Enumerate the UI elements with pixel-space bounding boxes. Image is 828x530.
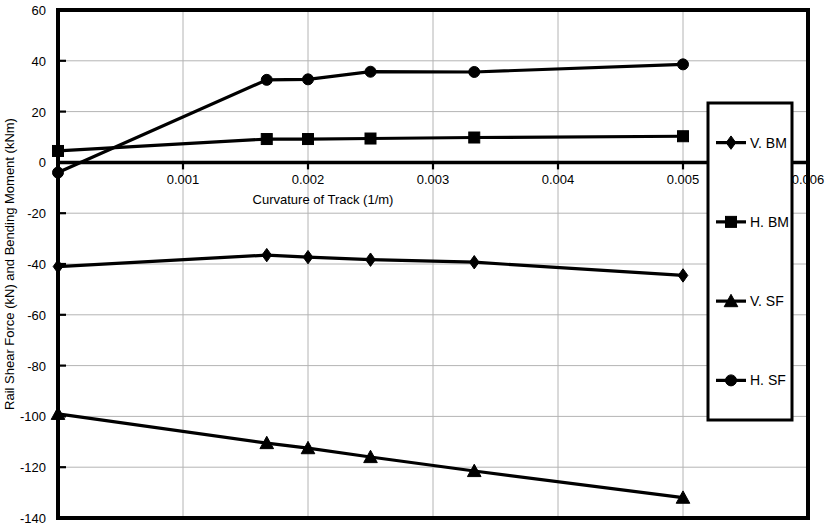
y-tick-label: -100 (20, 409, 46, 424)
gridlines (58, 10, 808, 518)
circle-marker (678, 59, 689, 70)
y-tick-label: 40 (32, 54, 46, 69)
series-v-bm (53, 248, 688, 282)
series-line (58, 64, 683, 172)
circle-marker (726, 375, 737, 386)
x-tick-label: 0.004 (542, 172, 575, 187)
legend-label: V. BM (750, 135, 787, 151)
square-marker (303, 134, 314, 145)
chart-legend: V. BMH. BMV. SFH. SF (708, 103, 792, 420)
diamond-marker (469, 256, 479, 269)
diamond-marker (303, 250, 313, 263)
y-axis-title: Rail Shear Force (kN) and Bending Moment… (2, 118, 17, 410)
y-tick-label: -120 (20, 460, 46, 475)
y-tick-label: 20 (32, 105, 46, 120)
square-marker (261, 134, 272, 145)
x-tick-label: 0.002 (292, 172, 325, 187)
square-marker (678, 131, 689, 142)
x-tick-label: 0.005 (667, 172, 700, 187)
square-marker (726, 216, 737, 227)
circle-marker (303, 74, 314, 85)
series-h-bm (53, 131, 689, 157)
y-tick-label: 60 (32, 3, 46, 18)
diamond-marker (262, 248, 272, 261)
legend-entry-h-bm[interactable]: H. BM (716, 214, 789, 230)
square-marker (469, 132, 480, 143)
diamond-marker (53, 260, 63, 273)
chart-figure: 0.0010.0020.0030.0040.0050.006 6040200-2… (0, 0, 828, 530)
x-axis-title: Curvature of Track (1/m) (253, 192, 394, 207)
circle-marker (365, 66, 376, 77)
y-tick-labels: 6040200-20-40-60-80-100-120-140 (20, 3, 46, 526)
legend-label: H. BM (750, 214, 789, 230)
series-group (51, 59, 690, 503)
square-marker (53, 145, 64, 156)
line-chart: 0.0010.0020.0030.0040.0050.006 6040200-2… (0, 0, 828, 530)
series-v-sf (51, 407, 690, 503)
circle-marker (469, 66, 480, 77)
x-tick-label: 0.001 (167, 172, 200, 187)
circle-marker (53, 167, 64, 178)
y-tick-label: -140 (20, 511, 46, 526)
square-marker (365, 133, 376, 144)
x-tick-label: 0.006 (792, 172, 825, 187)
series-h-sf (53, 59, 689, 178)
y-tick-label: -60 (27, 308, 46, 323)
legend-label: V. SF (750, 293, 784, 309)
circle-marker (261, 74, 272, 85)
y-tick-label: -80 (27, 359, 46, 374)
diamond-marker (678, 269, 688, 282)
x-tick-label: 0.003 (417, 172, 450, 187)
legend-label: H. SF (750, 372, 786, 388)
y-tick-label: -40 (27, 257, 46, 272)
y-tick-label: -20 (27, 206, 46, 221)
y-tick-label: 0 (39, 155, 46, 170)
